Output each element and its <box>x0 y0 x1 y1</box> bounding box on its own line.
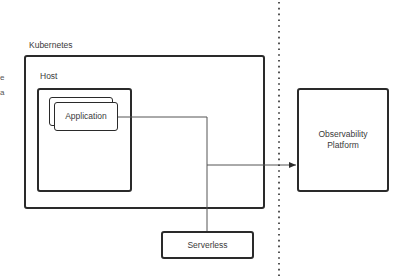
observability-label-line1: Observability <box>318 129 367 140</box>
serverless-box: Serverless <box>161 231 254 259</box>
serverless-label: Serverless <box>163 233 252 257</box>
observability-label-line2: Platform <box>327 140 359 151</box>
observability-platform-label: Observability Platform <box>299 90 387 190</box>
observability-platform-box: Observability Platform <box>297 88 389 192</box>
